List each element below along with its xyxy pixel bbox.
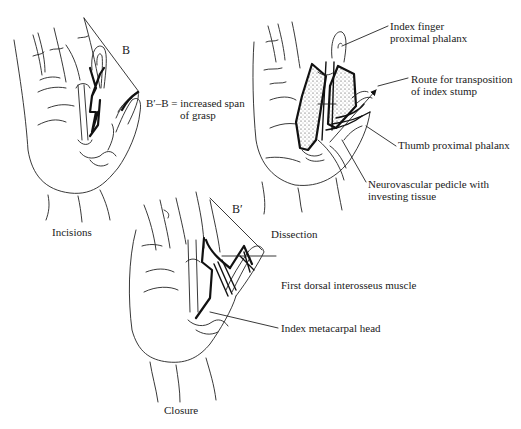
caption-closure: Closure [164, 404, 198, 416]
line-drawings [0, 0, 521, 429]
label-increased-span: B′–B = increased span [146, 97, 245, 109]
label-index-stump: of index stump [411, 85, 477, 97]
label-first-dorsal-interosseus: First dorsal interosseus muscle [281, 279, 416, 291]
label-thumb-proximal-phalanx: Thumb proximal phalanx [398, 139, 510, 151]
label-index-metacarpal-head: Index metacarpal head [281, 322, 381, 334]
caption-dissection: Dissection [271, 228, 317, 240]
label-index-finger: Index finger [390, 20, 444, 32]
label-b: B [122, 44, 130, 56]
label-investing-tissue: investing tissue [368, 190, 436, 202]
closure-hand-drawing [129, 192, 278, 402]
surgical-illustration-figure: B B′–B = increased span of grasp Incisio… [0, 0, 521, 429]
label-route-transposition: Route for transposition [411, 73, 512, 85]
label-proximal-phalanx: proximal phalanx [390, 32, 467, 44]
caption-incisions: Incisions [52, 226, 92, 238]
label-of-grasp: of grasp [180, 109, 216, 121]
label-b-prime: B′ [232, 203, 243, 215]
label-neurovascular-pedicle: Neurovascular pedicle with [368, 178, 489, 190]
